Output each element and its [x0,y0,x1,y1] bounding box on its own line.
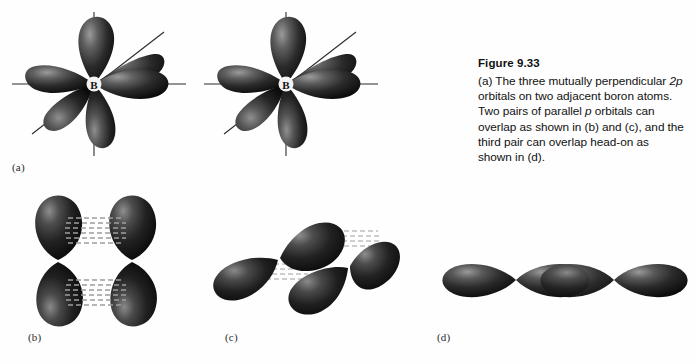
orbital-lobe-right [94,69,169,99]
orbital-right-vertical [109,196,157,327]
panel-a-atom-1: B [4,4,194,164]
orbital-lobe-far-left-d [442,264,516,297]
panel-label-d: (d) [437,331,450,343]
figure-caption-block: Figure 9.33 (a) The three mutually perpe… [478,57,684,165]
caption-part-1: (a) The three mutually perpendicular [478,74,669,88]
panel-d-diagram [440,240,690,320]
orbital-overlap-parallel-vertical [10,192,180,332]
orbital-overlap-head-on [440,240,690,320]
orbital-lobe-upper-left-c [280,223,345,271]
atom-symbol: B [90,79,98,91]
figure-number-label: Figure 9.33 [478,57,684,69]
orbital-lobe-bottom [86,84,116,148]
panel-a-atom-2: B [196,4,386,164]
panel-b-diagram [10,192,180,332]
caption-emphasis-2p: 2p [669,74,682,88]
orbital-lobe-far-right-d [614,264,688,297]
orbital-lobe-bottom [278,84,308,148]
orbital-lobe-inner-right-d [540,264,614,297]
orbital-overlap-parallel-tilted [200,212,400,332]
orbital-lobe-upper-right-c [350,242,400,290]
atom-symbol: B [282,79,290,91]
orbital-left-vertical [35,196,83,327]
panel-label-b: (b) [28,331,41,343]
orbital-lobe-lower-left-c [213,258,278,301]
atom-center-label-2: B [279,77,294,92]
orbital-lobe-lower-right [110,262,157,326]
atom-center-label-1: B [87,77,102,92]
orbital-lobe-lower-left [36,262,83,326]
panel-label-c: (c) [225,331,238,343]
figure-caption-text: (a) The three mutually perpendicular 2p … [478,74,684,165]
figure-page: B [0,0,696,364]
orbital-diagram-atom-1: B [4,4,194,164]
panel-label-a: (a) [12,161,25,173]
panel-c-diagram [200,212,400,332]
orbital-diagram-atom-2: B [196,4,386,164]
orbital-lobe-right [286,69,361,99]
